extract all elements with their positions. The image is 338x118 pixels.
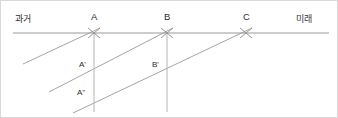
diagonal-line-to-c	[73, 28, 252, 113]
point-label-a-double-prime: A''	[77, 89, 85, 97]
point-label-c: C	[243, 12, 250, 22]
point-label-a-prime: A'	[79, 61, 86, 69]
point-label-b: B	[164, 12, 170, 22]
point-label-b-prime: B'	[152, 61, 159, 69]
axis-label-past: 과거	[15, 15, 31, 24]
timeline-diagram-figure: 과거 미래 A B C A' B' A''	[0, 0, 338, 118]
axis-label-future: 미래	[296, 15, 312, 24]
point-label-a: A	[91, 12, 97, 22]
